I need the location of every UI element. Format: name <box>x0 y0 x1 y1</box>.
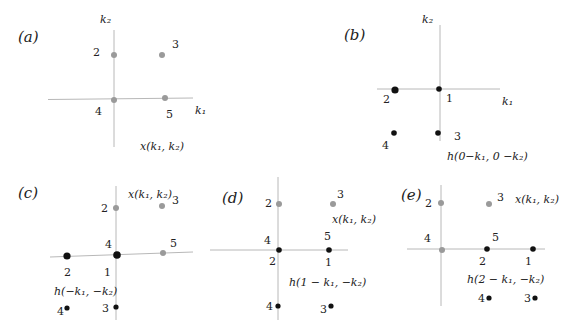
panel-b-y-axis-label: k₂ <box>422 14 433 25</box>
panel-d-x-points <box>276 201 336 207</box>
panel-c-h-point-label: 2 <box>64 267 71 278</box>
panel-a-label: (a) <box>18 30 39 45</box>
panel-e-x-points <box>438 200 492 253</box>
panel-c-h-point-label: 3 <box>102 303 109 314</box>
panel-c-x-points <box>113 203 166 256</box>
panel-d-x-point-label: 2 <box>265 198 272 209</box>
panel-b-point-label: 2 <box>383 94 390 105</box>
panel-c-x-point-label: 2 <box>101 203 108 214</box>
panel-e-x-caption: x(k₁, k₂) <box>515 194 559 205</box>
panel-d-x-point-label: 5 <box>324 231 331 242</box>
panel-b-x-axis-label: k₁ <box>502 96 513 107</box>
panel-a-point-label: 4 <box>95 106 102 117</box>
panel-b-caption: h(0−k₁, 0 −k₂) <box>447 151 528 162</box>
panel-e-x-point-label: 2 <box>425 198 432 209</box>
convolution-diagram: (a) k₂ k₁ 2 3 4 5 x(k₁, k₂) (b) k₂ k₁ 2 … <box>0 0 575 333</box>
panel-c-h-points <box>63 251 120 310</box>
panel-a-point-label: 3 <box>172 39 179 50</box>
panel-d-h-point-label: 3 <box>320 304 327 315</box>
panel-a-y-axis-label: k₂ <box>100 14 111 25</box>
panel-d-x-point-label: 4 <box>264 235 271 246</box>
panel-b-point-label: 4 <box>382 140 389 151</box>
panel-d-label: (d) <box>222 191 243 206</box>
panel-e-h-point-label: 3 <box>524 293 531 304</box>
panel-a-caption: x(k₁, k₂) <box>140 141 184 152</box>
panel-e-h-caption: h(2 − k₁, −k₂) <box>467 274 544 285</box>
panel-c-x-point-label: 3 <box>172 195 179 206</box>
panel-b-label: (b) <box>344 28 365 43</box>
panel-e-label: (e) <box>401 188 422 203</box>
panel-c-h-caption: h(−k₁, −k₂) <box>54 286 117 297</box>
panel-c-x-point-label: 4 <box>105 239 112 250</box>
panel-c-label: (c) <box>18 186 38 201</box>
panel-e-h-point-label: 2 <box>479 256 486 267</box>
panel-a-x-axis-label: k₁ <box>195 105 206 116</box>
panel-a-point-label: 2 <box>93 47 100 58</box>
panel-d-x-caption: x(k₁, k₂) <box>332 214 376 225</box>
panel-c-h-point-label: 4 <box>57 306 64 317</box>
panel-d-h-point-label: 1 <box>325 257 332 268</box>
panel-e-x-point-label: 5 <box>492 232 499 243</box>
panel-b-point-label: 3 <box>454 131 461 142</box>
panel-e-x-point-label: 3 <box>497 192 504 203</box>
panel-e-h-point-label: 1 <box>525 256 532 267</box>
panel-b-point-label: 1 <box>446 93 453 104</box>
panel-b-axes <box>377 25 500 141</box>
panel-d-h-caption: h(1 − k₁, −k₂) <box>289 277 366 288</box>
panel-d-x-point-label: 3 <box>337 189 344 200</box>
panel-d-h-point-label: 2 <box>269 256 276 267</box>
panel-c-x-point-label: 5 <box>170 238 177 249</box>
panel-b-points <box>391 86 442 136</box>
panel-e-h-point-label: 4 <box>478 293 485 304</box>
panel-a-point-label: 5 <box>166 109 173 120</box>
panel-d-h-point-label: 4 <box>266 301 273 312</box>
panel-c-h-point-label: 1 <box>104 267 111 278</box>
panel-a-points <box>111 52 168 103</box>
panel-c-x-caption: x(k₁, k₂) <box>128 189 172 200</box>
panel-e-x-point-label: 4 <box>424 233 431 244</box>
